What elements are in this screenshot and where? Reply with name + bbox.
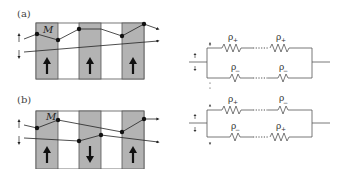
resistor-rho-minus — [230, 74, 253, 82]
panel-b-label: (b) — [17, 94, 31, 105]
layer-label-m: M — [42, 24, 54, 35]
spin-up-indicator-icon — [18, 33, 21, 42]
panel-b: (b) M — [17, 94, 158, 169]
circuit-a-labels: ρ + ρ + ρ − ρ − — [194, 32, 289, 84]
resistor-rho-minus — [230, 133, 253, 141]
resistor-rho-plus — [222, 106, 253, 114]
svg-text:+: + — [233, 98, 238, 105]
multilayer-stack-a: M — [36, 23, 144, 79]
circuit-a — [189, 44, 330, 82]
spin-down-indicator-icon — [18, 50, 21, 59]
svg-text:−: − — [235, 126, 240, 133]
svg-text:−: − — [235, 67, 240, 74]
resistor-rho-minus — [278, 74, 312, 82]
svg-text:+: + — [281, 36, 286, 43]
gmr-diagram: (a) M — [0, 0, 348, 169]
resistor-rho-plus — [270, 44, 312, 52]
resistor-rho-plus — [222, 44, 253, 52]
svg-text:+: + — [233, 36, 238, 43]
svg-text:−: − — [283, 67, 288, 74]
circuit-b-labels: ρ + ρ − ρ − ρ + — [194, 87, 289, 145]
panel-a: (a) M — [17, 8, 158, 79]
spin-up-indicator-icon — [18, 119, 21, 128]
spin-down-indicator-icon — [18, 136, 21, 145]
multilayer-stack-b: M — [36, 111, 144, 169]
resistor-rho-plus — [270, 133, 312, 141]
svg-text:+: + — [281, 125, 286, 132]
resistor-rho-minus — [278, 106, 312, 114]
circuit-b — [189, 106, 330, 141]
layer-label-m: M — [45, 111, 57, 122]
svg-text:−: − — [283, 99, 288, 106]
panel-a-label: (a) — [17, 8, 31, 19]
